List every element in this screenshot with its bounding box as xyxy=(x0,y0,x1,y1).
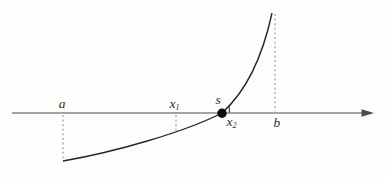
root-finding-diagram: a x1 s x2 b xyxy=(0,0,385,179)
label-b: b xyxy=(274,115,281,130)
diagram-canvas: a x1 s x2 b xyxy=(0,0,385,179)
label-x2-subscript: 2 xyxy=(233,121,237,130)
root-dot xyxy=(217,109,226,118)
label-x2-base: x xyxy=(226,114,233,129)
label-x1-base: x xyxy=(169,96,176,111)
label-s: s xyxy=(216,92,221,107)
label-x1-subscript: 1 xyxy=(176,103,180,112)
x2-tick xyxy=(229,106,230,113)
figure-background xyxy=(0,0,385,179)
label-a: a xyxy=(59,96,66,111)
